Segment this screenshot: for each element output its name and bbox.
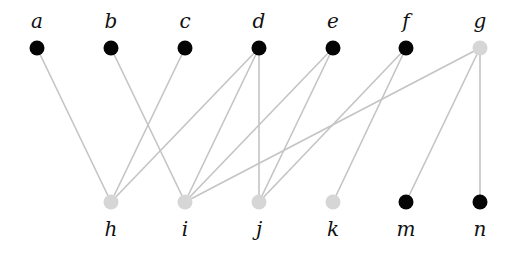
node-g [473, 41, 488, 56]
node-label-b: b [105, 9, 118, 33]
node-m [399, 195, 414, 210]
node-b [104, 41, 119, 56]
node-a [30, 41, 45, 56]
node-label-m: m [397, 217, 416, 241]
bipartite-graph: abcdefghijkmn [0, 0, 514, 253]
node-c [178, 41, 193, 56]
node-k [326, 195, 341, 210]
node-label-e: e [327, 9, 339, 33]
node-n [473, 195, 488, 210]
node-label-h: h [105, 217, 118, 241]
edge-g-m [406, 48, 480, 202]
edge-e-j [259, 48, 333, 202]
edge-g-i [185, 48, 480, 202]
edge-f-k [333, 48, 406, 202]
node-j [252, 195, 267, 210]
node-h [104, 195, 119, 210]
node-i [178, 195, 193, 210]
edge-d-i [185, 48, 259, 202]
node-label-j: j [252, 217, 262, 241]
node-label-c: c [179, 9, 190, 33]
edge-d-h [111, 48, 259, 202]
node-label-k: k [327, 217, 339, 241]
node-label-n: n [474, 217, 487, 241]
node-label-i: i [182, 217, 188, 241]
node-label-g: g [474, 9, 487, 33]
node-label-d: d [253, 9, 266, 33]
node-d [252, 41, 267, 56]
edge-layer [37, 48, 480, 202]
edge-a-h [37, 48, 111, 202]
node-label-a: a [31, 9, 43, 33]
node-e [326, 41, 341, 56]
node-f [399, 41, 414, 56]
node-label-f: f [400, 9, 413, 33]
